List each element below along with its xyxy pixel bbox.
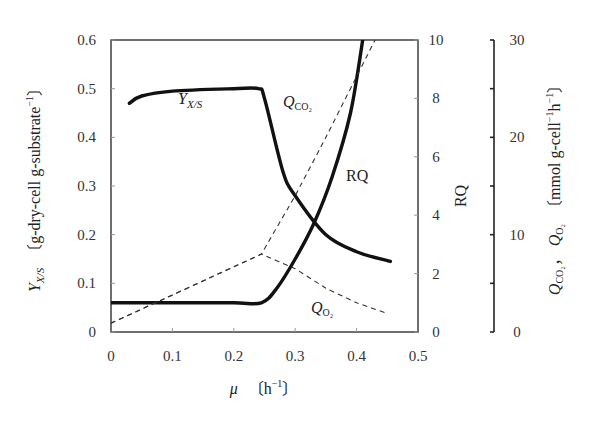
- annotation-qo2: QO₂: [311, 299, 333, 318]
- left-axis-ticks: 00.10.20.30.40.50.6: [77, 32, 115, 340]
- annotation-qco2: QCO₂: [283, 93, 312, 112]
- chart: 00.10.20.30.40.50.6 0246810 0102030 00.1…: [0, 0, 589, 432]
- rq-tick-label: 8: [432, 90, 440, 106]
- left-tick-label: 0.3: [77, 178, 96, 194]
- rq-tick-label: 2: [432, 266, 440, 282]
- left-tick-label: 0.6: [77, 32, 96, 48]
- q-tick-label: 20: [510, 129, 525, 145]
- x-tick-label: 0.3: [286, 348, 305, 364]
- q-axis: 0102030: [490, 32, 525, 340]
- x-axis-label: μ 〔h−1〕: [229, 378, 299, 398]
- plot-frame: [111, 40, 418, 332]
- rq-tick-label: 6: [432, 149, 440, 165]
- x-axis-ticks: 00.10.20.30.40.5: [107, 328, 427, 364]
- annotation-yxs: YX/S: [178, 90, 203, 110]
- series-rq: [111, 40, 363, 304]
- series-q-co2: [111, 40, 375, 323]
- left-tick-label: 0.1: [77, 275, 96, 291]
- x-tick-label: 0.2: [224, 348, 243, 364]
- left-tick-label: 0.5: [77, 81, 96, 97]
- q-axis-label: QCO₂， QO₂ 〔mmol g-cell−1h−1〕: [544, 77, 566, 295]
- rq-tick-label: 10: [429, 32, 444, 48]
- x-tick-label: 0.4: [347, 348, 366, 364]
- x-tick-label: 0: [107, 348, 115, 364]
- left-tick-label: 0: [89, 324, 97, 340]
- left-tick-label: 0.4: [77, 129, 96, 145]
- q-tick-label: 10: [510, 227, 525, 243]
- q-tick-label: 0: [513, 324, 521, 340]
- rq-tick-label: 4: [432, 207, 440, 223]
- left-tick-label: 0.2: [77, 227, 96, 243]
- series-q-o2: [111, 254, 387, 323]
- rq-axis-label: RQ: [452, 184, 469, 207]
- annotation-rq: RQ: [346, 167, 369, 184]
- left-axis-label: YX/S 〔g-dry-cell g-substrate−1〕: [24, 80, 47, 292]
- rq-tick-label: 0: [432, 324, 440, 340]
- x-tick-label: 0.5: [409, 348, 428, 364]
- x-tick-label: 0.1: [163, 348, 182, 364]
- q-tick-label: 30: [510, 32, 525, 48]
- plot-border: [111, 40, 418, 332]
